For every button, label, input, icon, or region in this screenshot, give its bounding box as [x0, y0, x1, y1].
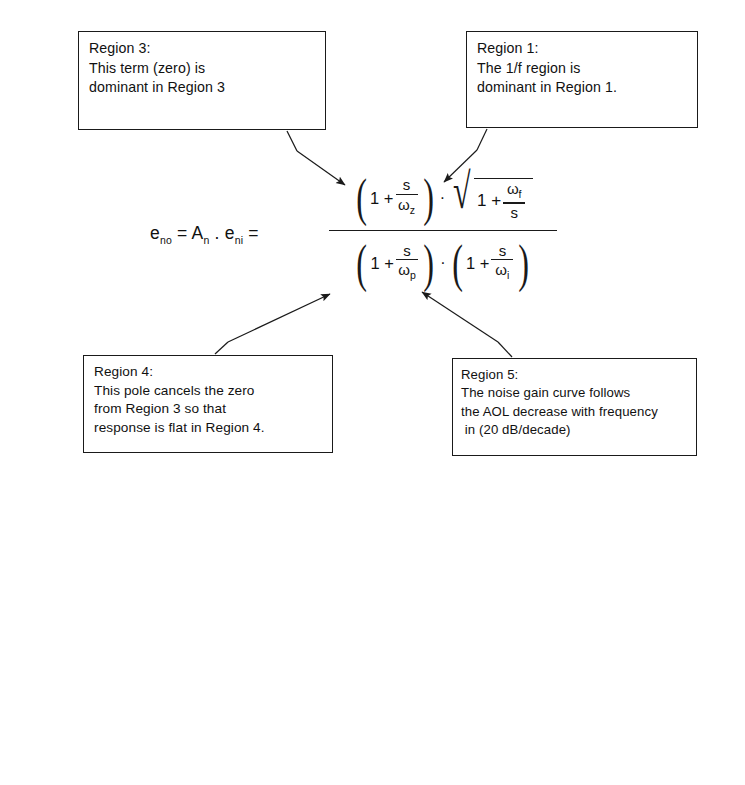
denominator-f1-open-paren: ( — [357, 245, 368, 282]
eq-equals-2: = — [243, 223, 258, 243]
callout-region-5-line-4: in (20 dB/decade) — [461, 421, 687, 439]
rad-fraction: ωf s — [503, 182, 525, 220]
equation-left-hand-side: eno = An . eni = — [150, 223, 259, 246]
callout-region-3-line-3: dominant in Region 3 — [89, 78, 316, 98]
den-f2-numer: s — [497, 244, 509, 258]
rad-omega-sub: f — [519, 188, 522, 200]
eq-e-no-sub: no — [160, 234, 172, 246]
main-fraction-bar — [329, 230, 557, 231]
denominator-f1-close-paren: ) — [423, 245, 434, 282]
den-f2-omega-sub: i — [507, 269, 509, 281]
callout-region-4-line-2: This pole cancels the zero — [94, 382, 323, 401]
radical-contents: 1 + ωf s — [474, 178, 533, 220]
noise-transfer-equation: eno = An . eni = ( 1 + s ωz ) · √ — [150, 168, 620, 308]
callout-region-3-line-1: Region 3: — [89, 39, 316, 59]
callout-region-1-line-3: dominant in Region 1. — [477, 78, 688, 98]
numerator-close-paren: ) — [423, 179, 434, 216]
eq-dot-eni: . e — [210, 223, 235, 243]
callout-region-4-line-4: response is flat in Region 4. — [94, 419, 323, 438]
numerator-open-paren: ( — [356, 179, 367, 216]
eq-e-no: e — [150, 223, 160, 243]
num-f1-numer: s — [401, 178, 413, 192]
equation-denominator: ( 1 + s ωp ) · ( 1 + s — [353, 233, 532, 293]
callout-region-5: Region 5: The noise gain curve follows t… — [452, 358, 697, 456]
rad-omega: ω — [507, 180, 519, 197]
denominator-second-pole-term: 1 + s ωi — [466, 244, 515, 283]
callout-region-1-line-2: The 1/f region is — [477, 59, 688, 79]
callout-region-5-line-1: Region 5: — [461, 366, 687, 384]
callout-region-4-line-3: from Region 3 so that — [94, 400, 323, 419]
den-f2-omega: ω — [495, 261, 507, 278]
callout-region-1: Region 1: The 1/f region is dominant in … — [466, 31, 698, 128]
denominator-f2-close-paren: ) — [519, 245, 530, 282]
numerator-multiply-op: · — [437, 189, 448, 207]
denominator-pole-term: 1 + s ωp — [371, 244, 420, 283]
den-f1-omega-sub: p — [410, 269, 416, 281]
noise-spectral-density-chart: Output noise spectral density Region 1Re… — [0, 478, 745, 785]
rad-one-plus: 1 + — [477, 191, 501, 211]
callout-region-4-line-1: Region 4: — [94, 363, 323, 382]
denominator-multiply-op: · — [437, 254, 448, 272]
rad-numer: ωf — [505, 182, 524, 201]
den-f1-numer: s — [401, 244, 413, 258]
callout-region-3-line-2: This term (zero) is — [89, 59, 316, 79]
den-f1-omega: ω — [398, 261, 410, 278]
den-f1-fraction: s ωp — [396, 244, 418, 283]
callout-region-4: Region 4: This pole cancels the zero fro… — [83, 355, 333, 453]
den-f1-denom: ωp — [396, 262, 418, 283]
equation-numerator: ( 1 + s ωz ) · √ 1 + ωf — [353, 168, 533, 228]
num-f1-fraction: s ωz — [396, 178, 418, 217]
den-f2-denom: ωi — [493, 262, 511, 283]
rad-denom: s — [508, 205, 520, 220]
figure-canvas: Region 3: This term (zero) is dominant i… — [0, 0, 745, 785]
numerator-radical: √ 1 + ωf s — [453, 176, 533, 220]
callout-region-1-line-1: Region 1: — [477, 39, 688, 59]
callout-region-5-line-2: The noise gain curve follows — [461, 384, 687, 402]
den-f2-fraction: s ωi — [491, 244, 513, 283]
num-f1-omega: ω — [398, 196, 410, 213]
eq-eni-sub: ni — [235, 234, 244, 246]
callout-region-3: Region 3: This term (zero) is dominant i… — [78, 31, 326, 130]
equation-right-hand-side: ( 1 + s ωz ) · √ 1 + ωf — [278, 168, 608, 293]
denominator-f2-open-paren: ( — [452, 245, 463, 282]
radical-sign-icon: √ — [453, 170, 471, 225]
den-f1-one-plus: 1 + — [371, 254, 394, 273]
eq-equals-an: = A — [172, 223, 203, 243]
num-f1-omega-sub: z — [410, 204, 415, 216]
den-f2-one-plus: 1 + — [466, 254, 489, 273]
num-f1-one-plus: 1 + — [370, 189, 393, 208]
num-f1-denom: ωz — [396, 197, 417, 218]
callout-region-5-line-3: the AOL decrease with frequency — [461, 403, 687, 421]
numerator-zero-term: 1 + s ωz — [370, 178, 419, 217]
